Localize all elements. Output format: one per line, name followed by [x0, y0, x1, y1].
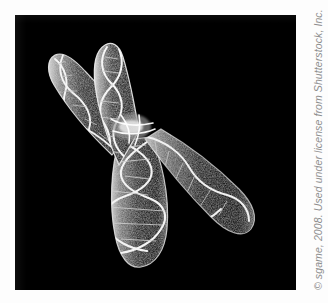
figure-root: © sgame, 2008. Used under license from S… [0, 0, 328, 303]
image-credit: © sgame, 2008. Used under license from S… [310, 15, 326, 290]
chromosome-illustration [15, 15, 296, 290]
chromosome-photograph [15, 15, 296, 290]
